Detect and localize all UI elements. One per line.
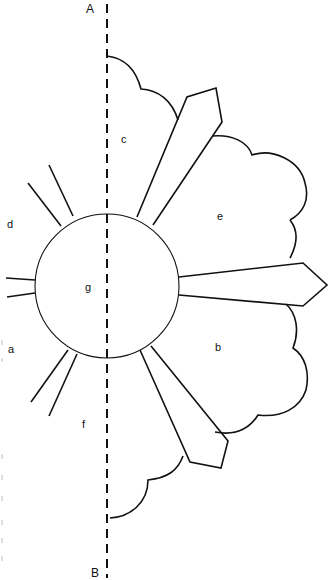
region-label-b: b	[215, 341, 221, 353]
ray-upper	[137, 88, 222, 225]
region-label-f: f	[82, 418, 86, 430]
ray-lower	[140, 346, 228, 468]
cloud-outline-b	[215, 304, 307, 433]
ray-right	[179, 263, 327, 306]
region-label-c: c	[121, 133, 127, 145]
cloud-outline-e-lower	[290, 220, 296, 258]
region-label-d: d	[7, 218, 13, 230]
region-label-a: a	[8, 343, 15, 355]
region-label-g: g	[85, 281, 91, 293]
region-label-e: e	[217, 210, 223, 222]
cloud-outline-e	[212, 136, 307, 220]
axis-label-bottom: B	[91, 566, 99, 580]
cloud-outline-upper	[107, 56, 178, 120]
cloud-outline-bottom	[110, 456, 183, 518]
axis-label-top: A	[86, 2, 94, 16]
diagram-canvas: A B c e b g d a f	[0, 0, 329, 580]
